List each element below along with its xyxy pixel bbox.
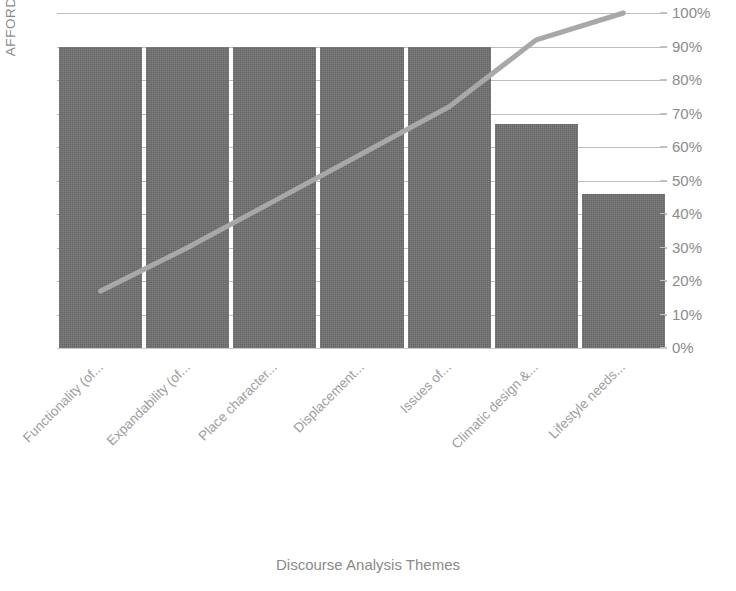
y-axis-tick-text: 30% — [672, 239, 702, 256]
y-axis-tick-label: 20% — [672, 271, 736, 291]
y-axis-tick-mark — [660, 347, 667, 348]
y-axis-tick-mark — [660, 46, 667, 47]
y-axis-tick-label: 30% — [672, 238, 736, 258]
y-axis-tick-text: 60% — [672, 138, 702, 155]
y-axis-tick-label: 10% — [672, 305, 736, 325]
gridline — [57, 348, 667, 349]
y-axis-tick-mark — [660, 79, 667, 80]
y-axis-title: AFFORDANCES — [0, 0, 22, 117]
y-axis-tick-mark — [660, 213, 667, 214]
y-axis-tick-mark — [660, 113, 667, 114]
x-axis-tick-labels: Functionality (of...Expandability (of...… — [0, 352, 736, 542]
y-axis-tick-label: 90% — [672, 37, 736, 57]
y-axis-tick-text: 40% — [672, 205, 702, 222]
plot-area — [57, 13, 667, 348]
cumulative-line — [101, 13, 624, 291]
y-axis-tick-text: 20% — [672, 272, 702, 289]
y-axis-tick-text: 70% — [672, 105, 702, 122]
y-axis-tick-text: 80% — [672, 71, 702, 88]
y-axis-tick-mark — [660, 12, 667, 13]
y-axis-tick-label: 40% — [672, 204, 736, 224]
y-axis-tick-label: 80% — [672, 70, 736, 90]
y-axis-tick-text: 100% — [672, 4, 710, 21]
y-axis-tick-label: 100% — [672, 3, 736, 23]
y-axis-tick-label: 60% — [672, 137, 736, 157]
x-axis-title: Discourse Analysis Themes — [0, 556, 736, 573]
y-axis-tick-labels: 100%90%80%70%60%50%40%30%20%10%0% — [672, 0, 736, 370]
y-axis-tick-label: 70% — [672, 104, 736, 124]
cumulative-line-layer — [57, 13, 667, 348]
y-axis-tick-mark — [660, 314, 667, 315]
y-axis-tick-mark — [660, 146, 667, 147]
y-axis-tick-text: 50% — [672, 172, 702, 189]
y-axis-tick-mark — [660, 247, 667, 248]
y-axis-tick-text: 90% — [672, 38, 702, 55]
y-axis-tick-label: 50% — [672, 171, 736, 191]
y-axis-tick-mark — [660, 280, 667, 281]
y-axis-tick-mark — [660, 180, 667, 181]
y-axis-tick-text: 10% — [672, 306, 702, 323]
pareto-chart: AFFORDANCES 100%90%80%70%60%50%40%30%20%… — [0, 0, 736, 591]
